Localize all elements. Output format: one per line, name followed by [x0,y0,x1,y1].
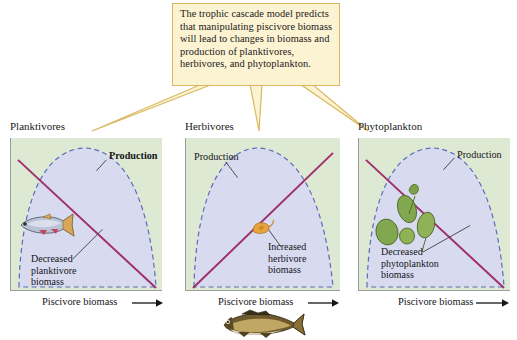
herbivore-snail-icon [251,218,275,236]
production-label-planktivores: Production [109,150,158,161]
plot-area-planktivores: Production Decreased planktivore biomass [10,138,162,291]
plot-area-herbivores: Production Increased herbivore biomass [185,138,340,291]
annotation-line-2: herbivore [268,253,306,265]
x-axis-label-herbivores: Piscivore biomass [218,296,293,307]
x-axis-arrow-phytoplankton [476,298,510,308]
annotation-line-1: Decreased [31,253,77,265]
piscivore-bass-fish-icon [216,308,308,338]
panel-phytoplankton: Phytoplankton Production Decreased [358,120,510,312]
panel-herbivores: Herbivores Production Increased herbivor… [185,120,340,312]
callout-box: The trophic cascade model predicts that … [172,3,340,86]
production-label-phytoplankton: Production [457,149,502,160]
x-axis-arrow-planktivores [132,298,164,308]
annotation-line-2: phytoplankton [381,258,439,270]
annotation-herbivores: Increased herbivore biomass [268,241,306,276]
x-axis-arrow-herbivores [308,298,340,308]
panel-title-herbivores: Herbivores [185,120,234,132]
panel-title-phytoplankton: Phytoplankton [358,120,422,132]
phytoplankton-algae-cells-icon [371,178,443,256]
x-axis-label-planktivores: Piscivore biomass [42,296,117,307]
plot-area-phytoplankton: Production Decreased phytoplankton bioma… [358,138,510,291]
panel-planktivores: Planktivores Production Decreased [10,120,162,312]
annotation-line-1: Decreased [381,246,439,258]
planktivore-minnow-fish-icon [17,211,79,239]
annotation-line-1: Increased [268,241,306,253]
annotation-line-3: biomass [268,264,306,276]
production-label-herbivores: Production [194,151,239,162]
annotation-line-2: planktivore [31,265,77,277]
annotation-planktivores: Decreased planktivore biomass [31,253,77,288]
x-axis-label-phytoplankton: Piscivore biomass [398,296,473,307]
panel-title-planktivores: Planktivores [10,120,65,132]
annotation-phytoplankton: Decreased phytoplankton biomass [381,246,439,281]
annotation-line-3: biomass [381,269,439,281]
callout-text: The trophic cascade model predicts that … [180,8,334,71]
annotation-line-3: biomass [31,276,77,288]
figure-canvas: The trophic cascade model predicts that … [0,0,517,340]
